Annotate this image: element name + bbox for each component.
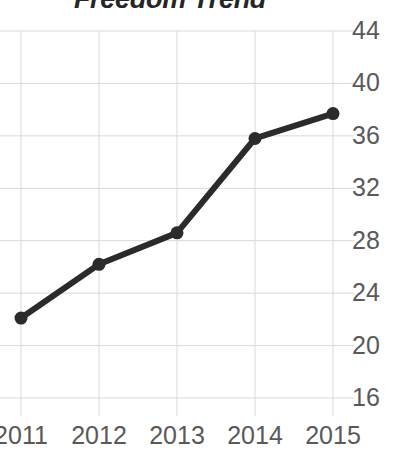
data-point-marker <box>327 107 340 120</box>
y-axis-tick-label: 16 <box>352 385 393 410</box>
data-point-marker <box>93 258 106 271</box>
y-axis-tick-label: 36 <box>352 123 393 148</box>
chart-container: Freedom Trend 4440363228242016 201120122… <box>0 0 393 453</box>
y-axis-tick-label: 32 <box>352 175 393 200</box>
y-axis-tick-label: 20 <box>352 333 393 358</box>
x-axis-tick-label: 2015 <box>298 423 368 448</box>
data-point-marker <box>171 226 184 239</box>
x-axis-tick-label: 2013 <box>142 423 212 448</box>
y-axis-tick-label: 44 <box>352 18 393 43</box>
x-axis-tick-label: 2012 <box>64 423 134 448</box>
gridlines-group <box>0 31 354 416</box>
x-axis-tick-label: 2014 <box>220 423 290 448</box>
data-point-marker <box>249 132 262 145</box>
y-axis-tick-label: 24 <box>352 280 393 305</box>
y-axis-tick-label: 28 <box>352 228 393 253</box>
y-axis-tick-label: 40 <box>352 70 393 95</box>
line-chart-plot <box>0 0 393 453</box>
x-axis-tick-label: 2011 <box>0 423 56 448</box>
data-point-marker <box>15 312 28 325</box>
